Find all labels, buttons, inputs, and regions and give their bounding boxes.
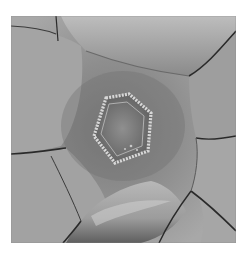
photo-illustration [11, 16, 236, 243]
wound-photo [11, 16, 236, 243]
